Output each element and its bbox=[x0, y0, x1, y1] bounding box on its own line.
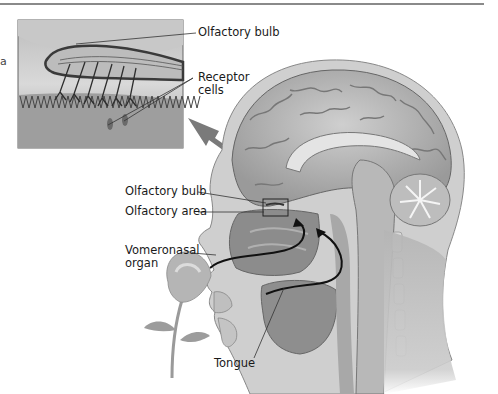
label-olfactory-bulb: Olfactory bulb bbox=[125, 185, 206, 198]
label-tongue: Tongue bbox=[214, 357, 255, 370]
label-vomeronasal-line2: organ bbox=[125, 257, 158, 270]
label-inset-olfactory-bulb: Olfactory bulb bbox=[198, 26, 279, 39]
label-olfactory-area: Olfactory area bbox=[125, 205, 207, 218]
label-receptor-cells-line2: cells bbox=[198, 84, 224, 97]
olfactory-anatomy-illustration bbox=[0, 0, 498, 394]
head-cross-section bbox=[199, 60, 465, 394]
inset-magnified-view bbox=[18, 20, 200, 148]
rose-illustration bbox=[144, 252, 211, 378]
